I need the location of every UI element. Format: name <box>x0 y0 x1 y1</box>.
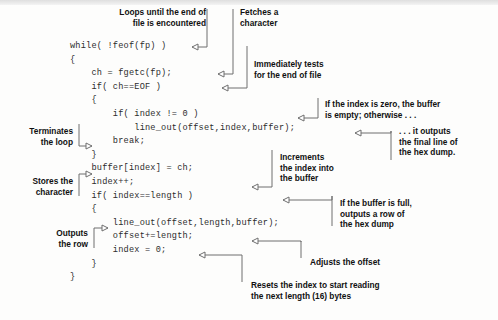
callout-it-outputs-final-line: . . . it outputs the final line of the h… <box>399 126 494 158</box>
callout-outputs-the-row: Outputs the row <box>20 228 88 249</box>
callout-adjusts-the-offset: Adjusts the offset <box>310 257 430 268</box>
callout-terminates-the-loop: Terminates the loop <box>5 126 73 147</box>
callout-fetches-a-character: Fetches a character <box>240 7 320 28</box>
callout-loops-until-eof: Loops until the end of file is encounter… <box>106 7 206 28</box>
callout-resets-the-index: Resets the index to start reading the ne… <box>251 280 426 301</box>
callout-immediately-tests-eof: Immediately tests for the end of file <box>254 59 354 80</box>
annotated-code-figure: while( !feof(fp) ) { ch = fgetc(fp); if(… <box>0 0 498 320</box>
leader-index-is-zero <box>298 98 318 121</box>
callout-index-is-zero: If the index is zero, the buffer is empt… <box>325 99 495 120</box>
callout-increments-the-index: Increments the index into the buffer <box>280 152 365 184</box>
callout-stores-the-character: Stores the character <box>5 176 73 197</box>
scan-edge-band <box>0 0 498 5</box>
callout-buffer-is-full: If the buffer is full, outputs a row of … <box>340 198 450 230</box>
